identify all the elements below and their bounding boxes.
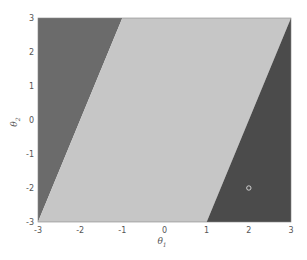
y-tick-label: 3 [29, 14, 34, 23]
y-tick-label: 2 [29, 48, 34, 57]
x-axis-label: θ1 [157, 236, 166, 248]
y-tick-label: -3 [26, 218, 34, 227]
x-tick-label: -3 [34, 226, 42, 235]
x-tick-label: 2 [246, 226, 251, 235]
plot: -3-2-10123 -3-2-10123 θ1 θ2 [0, 0, 307, 260]
x-tick-label: 0 [162, 226, 167, 235]
x-tick-label: -2 [76, 226, 84, 235]
y-axis-label: θ2 [9, 117, 21, 126]
x-tick-label: 3 [288, 226, 293, 235]
x-tick-label: 1 [204, 226, 209, 235]
x-tick-label: -1 [118, 226, 126, 235]
y-tick-label: 0 [29, 116, 34, 125]
y-tick-label: 1 [29, 82, 34, 91]
y-tick-label: -1 [26, 150, 34, 159]
y-tick-label: -2 [26, 184, 34, 193]
